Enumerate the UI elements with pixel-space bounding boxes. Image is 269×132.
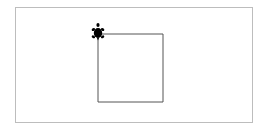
square-path <box>98 34 163 102</box>
turtle-icon <box>91 23 105 41</box>
drawing-layer <box>0 0 269 132</box>
